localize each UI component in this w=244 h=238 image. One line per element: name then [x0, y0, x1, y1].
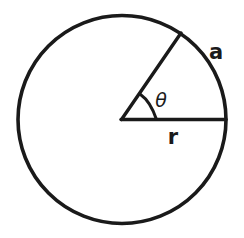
radius-label: r — [168, 125, 179, 149]
circle-sector-diagram: a θ r — [0, 0, 244, 238]
arc-length-label: a — [209, 40, 223, 64]
diagram-canvas: a θ r — [0, 0, 244, 238]
central-angle-label: θ — [155, 89, 167, 111]
